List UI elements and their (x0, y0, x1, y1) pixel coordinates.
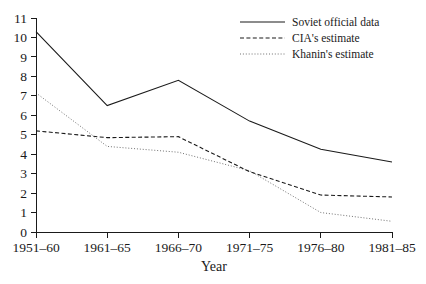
legend-label-3: Khanin's estimate (292, 48, 374, 60)
x-tick-labels: 1951–601961–651966–701971–751976–801981–… (12, 240, 416, 255)
chart-canvas: 01234567891011 1951–601961–651966–701971… (0, 0, 426, 284)
line-chart: 01234567891011 1951–601961–651966–701971… (0, 0, 426, 284)
y-tick-label: 3 (20, 166, 27, 181)
y-axis: 01234567891011 (14, 11, 37, 240)
x-tick-marks (36, 232, 392, 238)
y-tick-label: 0 (20, 225, 27, 240)
y-tick-label: 8 (20, 69, 27, 84)
y-tick-label: 9 (20, 50, 27, 65)
y-tick-label: 2 (20, 186, 27, 201)
chart-legend: Soviet official dataCIA's estimateKhanin… (240, 16, 379, 60)
x-tick-label: 1976–80 (297, 240, 345, 255)
y-tick-label: 6 (20, 108, 27, 123)
legend-label-1: Soviet official data (292, 16, 379, 28)
x-axis: 1951–601961–651966–701971–751976–801981–… (12, 232, 416, 255)
y-tick-label: 7 (20, 88, 27, 103)
y-tick-label: 10 (14, 30, 28, 45)
x-tick-label: 1971–75 (226, 240, 274, 255)
y-tick-label: 11 (14, 11, 27, 26)
x-tick-label: 1981–85 (368, 240, 416, 255)
series-line-khanin-s-estimate (36, 93, 392, 221)
y-tick-label: 5 (20, 127, 27, 142)
x-axis-title: Year (201, 259, 227, 274)
x-tick-label: 1961–65 (84, 240, 132, 255)
x-tick-label: 1951–60 (12, 240, 60, 255)
series-line-cia-s-estimate (36, 131, 392, 197)
y-tick-label: 4 (20, 147, 27, 162)
y-tick-labels: 01234567891011 (14, 11, 28, 240)
y-tick-label: 1 (20, 205, 27, 220)
legend-label-2: CIA's estimate (292, 32, 360, 44)
y-tick-marks (31, 18, 36, 232)
x-tick-label: 1966–70 (155, 240, 203, 255)
